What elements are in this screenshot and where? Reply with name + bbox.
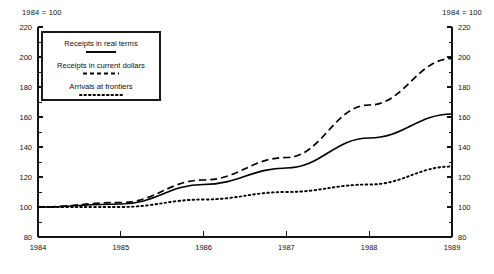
y-tick-label: 200: [458, 53, 471, 62]
y-tick-label: 100: [458, 203, 471, 212]
chart-legend: Receipts in real termsReceipts in curren…: [42, 32, 160, 100]
x-ticks: [38, 230, 452, 237]
y-tick-label: 180: [458, 83, 471, 92]
x-tick-label: 1984: [30, 243, 47, 252]
line-chart: 1984 = 100 1984 = 100 801001201401601802…: [0, 0, 494, 274]
x-tick-label: 1987: [278, 243, 295, 252]
x-tick-label: 1986: [195, 243, 212, 252]
y-tick-label: 120: [19, 173, 32, 182]
y-tick-label: 220: [19, 23, 32, 32]
x-tick-labels: 198419851986198719881989: [30, 243, 461, 252]
y-tick-label: 140: [458, 143, 471, 152]
y-tick-label: 120: [458, 173, 471, 182]
x-tick-label: 1988: [361, 243, 378, 252]
index-base-note-left: 1984 = 100: [22, 9, 62, 17]
legend-label: Receipts in current dollars: [57, 61, 145, 70]
y-tick-label: 100: [19, 203, 32, 212]
y-tick-label: 80: [458, 233, 466, 242]
y-tick-label: 160: [19, 113, 32, 122]
plot-area: 80100120140160180200220 8010012014016018…: [0, 0, 494, 274]
y-tick-label: 80: [24, 233, 32, 242]
legend-label: Arrivals at frontiers: [69, 82, 133, 91]
y-tick-label: 180: [19, 83, 32, 92]
y-tick-label: 200: [19, 53, 32, 62]
x-tick-label: 1989: [444, 243, 461, 252]
index-base-note-right: 1984 = 100: [442, 9, 482, 17]
y-tick-labels-left: 80100120140160180200220: [19, 23, 32, 242]
y-tick-label: 140: [19, 143, 32, 152]
legend-label: Receipts in real terms: [64, 39, 138, 48]
y-tick-label: 220: [458, 23, 471, 32]
x-tick-label: 1985: [112, 243, 129, 252]
y-tick-label: 160: [458, 113, 471, 122]
y-tick-labels-right: 80100120140160180200220: [458, 23, 471, 242]
series-line-dotted: [38, 167, 452, 208]
series-line-solid: [38, 114, 452, 207]
